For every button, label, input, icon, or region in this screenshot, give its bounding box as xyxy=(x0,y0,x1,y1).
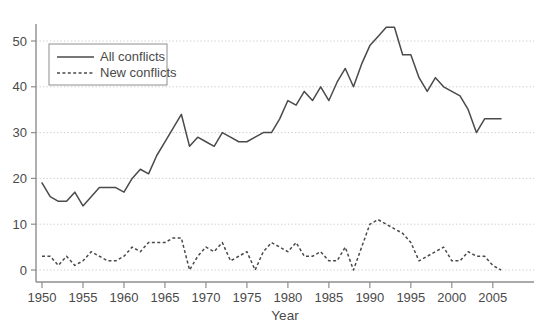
chart-legend: All conflicts New conflicts xyxy=(49,44,177,85)
x-tick-label-1965: 1965 xyxy=(150,290,179,305)
x-tick-label-1960: 1960 xyxy=(110,290,139,305)
x-tick-label-1955: 1955 xyxy=(69,290,98,305)
x-axis-title: Year xyxy=(271,308,299,323)
x-tick-label-2005: 2005 xyxy=(478,290,507,305)
legend-label-all-conflicts: All conflicts xyxy=(100,49,166,64)
y-tick-label-20: 20 xyxy=(13,171,27,186)
y-ticks-group: 01020304050 xyxy=(13,34,36,278)
chart-canvas: 01020304050 1950195519601965197019751980… xyxy=(0,0,547,327)
x-tick-label-1980: 1980 xyxy=(273,290,302,305)
y-tick-label-40: 40 xyxy=(13,79,27,94)
x-ticks-group: 1950195519601965197019751980198519901995… xyxy=(28,282,508,305)
x-tick-label-1990: 1990 xyxy=(355,290,384,305)
y-tick-label-50: 50 xyxy=(13,34,27,49)
conflicts-line-chart: 01020304050 1950195519601965197019751980… xyxy=(0,0,547,327)
x-tick-label-1985: 1985 xyxy=(314,290,343,305)
x-tick-label-1950: 1950 xyxy=(28,290,57,305)
y-tick-label-10: 10 xyxy=(13,217,27,232)
x-tick-label-1970: 1970 xyxy=(191,290,220,305)
y-tick-label-30: 30 xyxy=(13,125,27,140)
x-tick-label-2000: 2000 xyxy=(437,290,466,305)
y-tick-label-0: 0 xyxy=(20,263,27,278)
legend-label-new-conflicts: New conflicts xyxy=(100,65,177,80)
x-tick-label-1995: 1995 xyxy=(396,290,425,305)
series-line-new-conflicts xyxy=(42,220,501,270)
x-tick-label-1975: 1975 xyxy=(232,290,261,305)
